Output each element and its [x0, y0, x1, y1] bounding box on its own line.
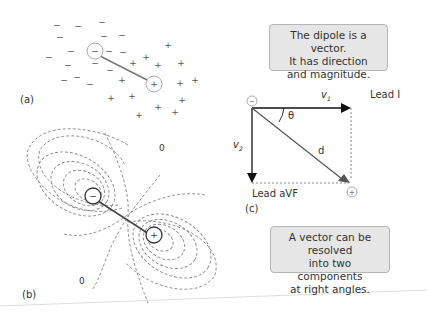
svg-text:−: −	[56, 32, 64, 42]
svg-text:−: −	[64, 60, 72, 70]
svg-text:+: +	[118, 75, 126, 85]
panel-a-charges: −−− −−− −−− −−−− −−− ++++ ++++ +++ +++	[45, 17, 199, 120]
svg-text:−: −	[119, 47, 127, 57]
panel-b-dipole: − +	[85, 188, 162, 243]
svg-text:+: +	[176, 78, 184, 88]
arrowhead-icon	[247, 173, 257, 183]
panel-b-label: (b)	[22, 289, 36, 300]
note-line: A vector can be resolved	[277, 231, 383, 257]
svg-text:+: +	[178, 95, 186, 105]
svg-text:+: +	[349, 189, 355, 197]
svg-text:+: +	[128, 91, 136, 101]
theta-label: θ	[288, 110, 294, 121]
svg-text:−: −	[45, 52, 53, 62]
note-line: and magnitude.	[276, 68, 381, 81]
svg-text:−: −	[74, 21, 82, 31]
panel-c-vectors: − +	[247, 96, 357, 197]
svg-text:−: −	[100, 31, 108, 41]
svg-text:−: −	[60, 75, 68, 85]
svg-text:−: −	[86, 79, 94, 89]
svg-text:−: −	[53, 20, 61, 30]
svg-text:+: +	[150, 79, 158, 89]
lead-i-label: Lead I	[370, 89, 400, 100]
panel-b-field-lines	[26, 129, 223, 303]
panel-c-label: (c)	[245, 203, 258, 214]
panel-a-label: (a)	[20, 94, 34, 105]
svg-text:−: −	[105, 46, 113, 56]
svg-text:−: −	[73, 72, 81, 82]
note-line: at right angles.	[277, 283, 383, 296]
angle-arc	[279, 108, 284, 122]
arrowhead-icon	[341, 103, 351, 113]
svg-text:+: +	[191, 75, 199, 85]
svg-text:−: −	[249, 98, 255, 106]
svg-text:+: +	[154, 60, 162, 70]
svg-text:+: +	[107, 93, 115, 103]
svg-text:−: −	[67, 46, 75, 56]
svg-text:−: −	[89, 191, 97, 201]
svg-text:+: +	[171, 107, 179, 117]
lead-avf-label: Lead aVF	[252, 188, 298, 199]
svg-text:+: +	[154, 102, 162, 112]
svg-text:+: +	[135, 110, 143, 120]
note-line: The dipole is a vector.	[276, 29, 381, 55]
svg-text:+: +	[129, 58, 137, 68]
svg-text:+: +	[150, 230, 158, 240]
svg-text:−: −	[118, 30, 126, 40]
note-vector-resolution: A vector can be resolved into two compon…	[270, 226, 390, 273]
arrowhead-icon	[338, 174, 350, 183]
svg-text:−: −	[98, 17, 106, 27]
zero-label-bottom: 0	[79, 276, 85, 286]
svg-text:+: +	[142, 52, 150, 62]
svg-text:−: −	[91, 46, 99, 56]
zero-label-top: 0	[159, 143, 165, 153]
note-dipole-vector: The dipole is a vector. It has direction…	[269, 24, 388, 71]
note-line: It has direction	[276, 55, 381, 68]
d-label: d	[318, 145, 324, 156]
note-line: into two components	[277, 257, 383, 283]
svg-text:+: +	[164, 40, 172, 50]
v1-label: v1	[321, 89, 331, 102]
v2-label: v2	[233, 139, 243, 152]
svg-text:−: −	[106, 65, 114, 75]
svg-text:+: +	[177, 58, 185, 68]
